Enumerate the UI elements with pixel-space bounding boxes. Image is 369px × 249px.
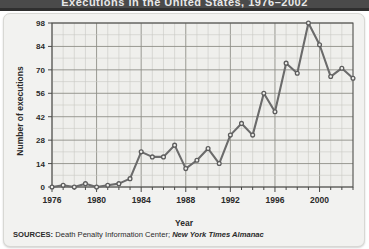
- source-note: SOURCES: Death Penalty Information Cente…: [13, 230, 264, 239]
- source-publication: New York Times Almanac: [172, 230, 264, 239]
- source-label: SOURCES:: [13, 230, 53, 239]
- page-title: Executions in the United States, 1976–20…: [0, 0, 369, 8]
- svg-text:98: 98: [36, 19, 45, 28]
- chart-card: 014284256708498 197619801984198819921996…: [3, 13, 365, 247]
- svg-text:70: 70: [36, 66, 45, 75]
- svg-text:1996: 1996: [266, 195, 285, 205]
- y-axis-title: Number of executions: [15, 51, 25, 171]
- svg-text:2000: 2000: [310, 195, 329, 205]
- svg-text:56: 56: [36, 89, 45, 98]
- screenshot-root: Executions in the United States, 1976–20…: [0, 0, 369, 249]
- svg-text:14: 14: [36, 160, 45, 169]
- svg-text:0: 0: [41, 183, 46, 192]
- svg-text:1988: 1988: [176, 195, 195, 205]
- y-axis-ticks: 014284256708498: [36, 19, 52, 192]
- x-axis-ticks: 1976198019841988199219962000: [43, 187, 353, 205]
- svg-text:1984: 1984: [132, 195, 151, 205]
- svg-text:1992: 1992: [221, 195, 240, 205]
- svg-text:42: 42: [36, 113, 45, 122]
- svg-text:1980: 1980: [87, 195, 106, 205]
- svg-text:1976: 1976: [43, 195, 62, 205]
- chart-gridlines: [52, 23, 353, 187]
- x-axis-title: Year: [4, 218, 364, 228]
- svg-text:84: 84: [36, 42, 45, 51]
- line-chart-svg: 014284256708498 197619801984198819921996…: [4, 14, 364, 246]
- chart-title-bar: Executions in the United States, 1976–20…: [0, 0, 369, 11]
- plot-area: 014284256708498 197619801984198819921996…: [4, 14, 364, 246]
- title-bar-rule: [0, 8, 369, 11]
- source-text: Death Penalty Information Center;: [53, 230, 172, 239]
- svg-text:28: 28: [36, 136, 45, 145]
